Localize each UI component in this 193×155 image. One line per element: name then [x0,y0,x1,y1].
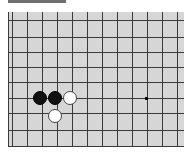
grid-line-vertical [132,12,133,147]
grid-line-horizontal [8,82,184,83]
grid-line-vertical [27,12,28,147]
white-stone [63,91,77,105]
grid-line-vertical [12,12,13,147]
board-edge-bottom [8,146,184,147]
star-point [145,97,148,100]
black-stone [48,91,62,105]
grid-line-horizontal [8,20,184,21]
grid-line-vertical [42,12,43,147]
grid-line-vertical [57,12,58,147]
grid-line-horizontal [8,67,184,68]
black-stone [33,91,47,105]
board-edge-left [8,12,9,147]
grid-line-horizontal [8,37,184,38]
grid-line-horizontal [8,130,184,131]
grid-line-vertical [102,12,103,147]
grid-line-horizontal [8,52,184,53]
top-bar [8,0,66,3]
go-board[interactable] [8,12,184,147]
grid-line-vertical [72,12,73,147]
grid-line-vertical [147,12,148,147]
white-stone [48,109,62,123]
grid-line-vertical [117,12,118,147]
grid-line-vertical [162,12,163,147]
grid-line-vertical [87,12,88,147]
grid-line-vertical [177,12,178,147]
grid-line-horizontal [8,113,184,114]
